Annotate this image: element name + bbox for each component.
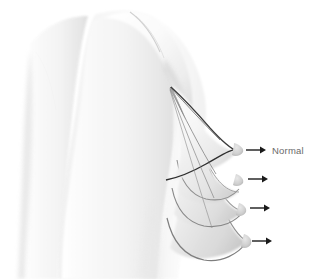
breast-stage-2-nipple	[233, 174, 243, 186]
arrow-grade-2-icon	[250, 205, 270, 212]
annotation-arrows	[246, 147, 272, 245]
breast-normal-nipple	[232, 143, 243, 156]
ptosis-stage-group	[166, 87, 251, 261]
breast-stage-3-nipple	[236, 203, 246, 216]
arrow-normal-icon	[246, 147, 266, 154]
breast-ptosis-diagram: Normal	[0, 0, 310, 279]
breast-stage-4-nipple	[241, 234, 251, 248]
label-normal: Normal	[272, 145, 304, 156]
arrow-grade-1-icon	[248, 176, 268, 183]
illustration-canvas: Normal	[0, 0, 310, 279]
arrow-grade-3-icon	[252, 238, 272, 245]
